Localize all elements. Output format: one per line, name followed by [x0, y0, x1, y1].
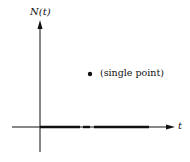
- single-point-marker: [88, 72, 92, 76]
- diagram-canvas: [0, 0, 190, 162]
- y-axis-label: N(t): [30, 6, 51, 17]
- y-axis-arrow-icon: [38, 20, 43, 29]
- y-axis: [38, 20, 43, 152]
- x-axis-label: t: [178, 120, 182, 131]
- x-axis: [12, 125, 175, 130]
- x-axis-arrow-icon: [166, 125, 175, 130]
- point-annotation: (single point): [100, 67, 164, 78]
